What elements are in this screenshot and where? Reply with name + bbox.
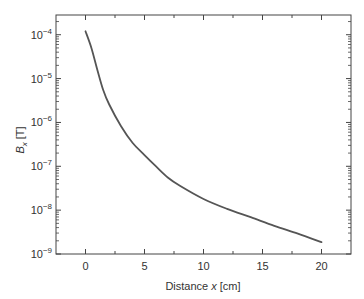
plot-border [56, 15, 351, 254]
y-tick-label: 10−5 [31, 71, 53, 85]
x-tick-label: 0 [82, 260, 88, 272]
x-tick-label: 10 [197, 260, 209, 272]
y-axis-label: Bx [T] [14, 126, 29, 153]
y-tick-label: 10−7 [31, 158, 53, 172]
x-tick-label: 20 [315, 260, 327, 272]
y-tick-label: 10−4 [31, 27, 53, 41]
chart: 05101520 10−910−810−710−610−510−4 Distan… [0, 0, 364, 299]
x-axis-label: Distance x [cm] [165, 280, 240, 292]
y-tick-label: 10−8 [31, 202, 53, 216]
data-series [86, 31, 322, 242]
y-tick-label: 10−9 [31, 246, 53, 260]
x-tick-label: 15 [256, 260, 268, 272]
y-tick-label: 10−6 [31, 114, 53, 128]
x-axis-ticks: 05101520 [82, 15, 327, 272]
y-axis-ticks: 10−910−810−710−610−510−4 [31, 22, 351, 260]
x-tick-label: 5 [141, 260, 147, 272]
series-line-bx [86, 31, 322, 242]
plot-frame [56, 15, 351, 254]
